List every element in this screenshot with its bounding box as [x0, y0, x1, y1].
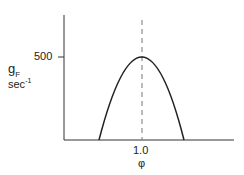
y-unit-exp: -1	[25, 77, 31, 84]
y-axis-unit: sec-1	[8, 77, 31, 90]
x-axis-label: φ	[138, 158, 145, 169]
y-tick-label: 500	[34, 51, 52, 62]
y-unit: sec	[8, 78, 25, 90]
x-tick-label: 1.0	[133, 145, 148, 156]
chart-plot	[0, 0, 244, 175]
